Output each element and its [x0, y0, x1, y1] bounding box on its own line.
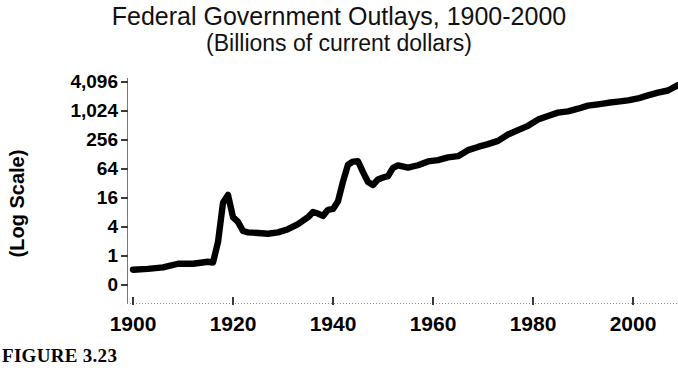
x-axis-tick [532, 297, 534, 305]
y-axis-tick-label: 1,024 [6, 101, 118, 120]
y-axis-tick [121, 255, 128, 257]
y-axis-tick-label: 64 [6, 159, 118, 178]
y-axis-tick [121, 139, 128, 141]
x-axis-tick-label: 1900 [88, 312, 178, 336]
x-axis-tick-label: 2000 [588, 312, 678, 336]
figure-caption: FIGURE 3.23 [2, 345, 117, 367]
data-series-line [133, 85, 678, 270]
y-axis-tick-label: 4,096 [6, 72, 118, 91]
chart-figure: Federal Government Outlays, 1900-2000 (B… [0, 0, 678, 372]
y-axis-tick-label: 0 [6, 275, 118, 294]
y-axis-tick [121, 168, 128, 170]
x-axis-tick-label: 1980 [488, 312, 578, 336]
x-axis-tick-label: 1940 [288, 312, 378, 336]
x-axis-tick [232, 297, 234, 305]
x-axis-tick-label: 1960 [388, 312, 478, 336]
y-axis-tick [121, 284, 128, 286]
y-axis-tick-label: 256 [6, 130, 118, 149]
x-axis-tick [432, 297, 434, 305]
y-axis-tick [121, 226, 128, 228]
y-axis-tick [121, 81, 128, 83]
y-axis-tick [121, 110, 128, 112]
y-axis-tick-label: 16 [6, 188, 118, 207]
y-axis-tick-label: 4 [6, 217, 118, 236]
x-axis-tick-label: 1920 [188, 312, 278, 336]
y-axis-tick [121, 197, 128, 199]
x-axis-tick [332, 297, 334, 305]
y-axis-tick-label: 1 [6, 246, 118, 265]
x-axis-tick [132, 297, 134, 305]
x-axis-tick [632, 297, 634, 305]
x-axis-baseline [127, 303, 678, 304]
